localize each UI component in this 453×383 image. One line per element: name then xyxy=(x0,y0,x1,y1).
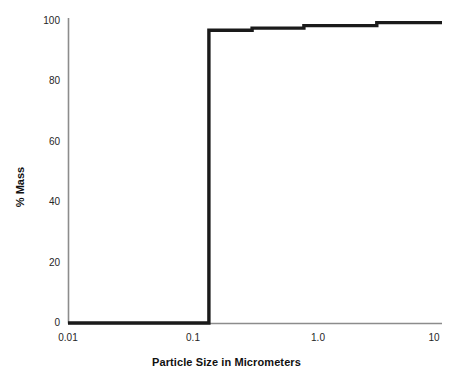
chart-figure: 100 80 60 40 20 0 0.01 0.1 1.0 10 Partic… xyxy=(0,0,453,383)
x-tick-label-1-0: 1.0 xyxy=(293,332,343,343)
x-tick-label-10: 10 xyxy=(409,332,453,343)
x-tick-label-0-01: 0.01 xyxy=(43,332,93,343)
chart-plot-area xyxy=(0,0,453,383)
y-tick-label-0: 0 xyxy=(24,317,60,328)
cumulative-mass-step-line xyxy=(68,23,442,323)
y-tick-label-80: 80 xyxy=(24,75,60,86)
y-axis-title-wrapper: % Mass xyxy=(8,145,32,235)
y-tick-label-20: 20 xyxy=(24,257,60,268)
x-tick-label-0-1: 0.1 xyxy=(168,332,218,343)
y-axis-title: % Mass xyxy=(14,151,26,223)
x-axis-title: Particle Size in Micrometers xyxy=(0,356,453,368)
y-tick-label-100: 100 xyxy=(24,15,60,26)
